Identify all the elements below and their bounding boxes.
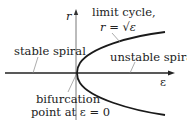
unstable-spiral-label: unstable spiral xyxy=(110,50,187,64)
epsilon-axis-label: ε xyxy=(160,75,166,89)
epsilon-axis-arrow-icon xyxy=(168,71,175,76)
bifurcation-diagram: r limit cycle, r = √ε stable spiral unst… xyxy=(0,0,187,130)
bifurcation-label-line1: bifurcation xyxy=(36,92,101,106)
r-axis-label: r xyxy=(66,9,73,23)
r-axis-arrow-icon xyxy=(74,9,78,15)
bifurcation-label-line2: point at ε = 0 xyxy=(31,105,110,119)
limit-cycle-formula: r = √ε xyxy=(100,20,136,34)
stable-spiral-leader xyxy=(33,57,38,73)
stable-spiral-label: stable spiral xyxy=(14,44,86,58)
limit-cycle-leader xyxy=(112,33,120,42)
bifurcation-leader xyxy=(68,75,76,92)
limit-cycle-label: limit cycle, xyxy=(92,5,156,19)
